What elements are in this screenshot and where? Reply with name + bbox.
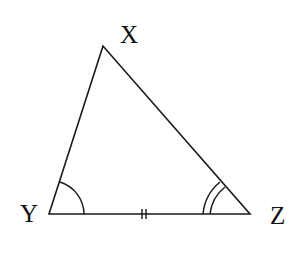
vertex-label-z: Z <box>270 202 285 229</box>
triangle-svg: X Y Z <box>0 0 296 256</box>
vertex-label-y: Y <box>20 200 38 227</box>
vertex-label-x: X <box>120 21 138 48</box>
triangle-diagram: X Y Z <box>0 0 296 256</box>
angle-y-arc <box>60 182 84 214</box>
triangle-xyz <box>49 46 250 214</box>
